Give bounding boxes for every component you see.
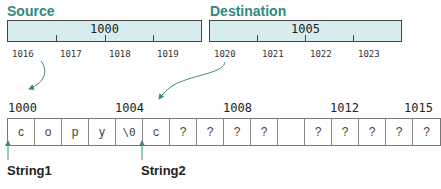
destination-to-1004-arrow <box>160 61 225 100</box>
string1-label: String1 <box>7 163 52 178</box>
source-to-1000-arrow <box>29 61 45 89</box>
string2-label: String2 <box>141 163 186 178</box>
destination-to-1004-arrow-line <box>159 62 225 99</box>
